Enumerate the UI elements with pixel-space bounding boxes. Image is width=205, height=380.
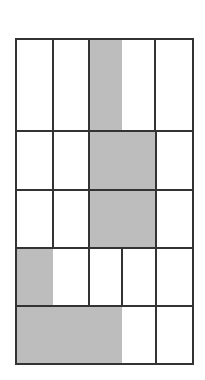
grid-vertical-line	[155, 131, 157, 190]
grid-vertical-line	[88, 190, 90, 248]
shaded-region	[89, 39, 122, 131]
grid-vertical-line	[121, 248, 123, 306]
grid-vertical-line	[88, 248, 90, 306]
grid-vertical-line	[88, 39, 90, 131]
grid-vertical-line	[154, 39, 156, 131]
shaded-region	[89, 131, 156, 190]
grid-vertical-line	[52, 131, 54, 190]
shaded-region	[89, 190, 156, 248]
grid-vertical-line	[155, 190, 157, 248]
grid-horizontal-line	[15, 130, 194, 132]
grid-horizontal-line	[15, 189, 194, 191]
grid-vertical-line	[52, 190, 54, 248]
grid-diagram	[0, 0, 205, 380]
grid-vertical-line	[155, 306, 157, 364]
shaded-region	[16, 248, 53, 306]
grid-horizontal-line	[15, 247, 194, 249]
grid-vertical-line	[155, 248, 157, 306]
grid-horizontal-line	[15, 38, 194, 40]
grid-horizontal-line	[15, 363, 194, 365]
grid-left-border	[15, 38, 17, 365]
grid-vertical-line	[52, 39, 54, 131]
grid-right-border	[192, 38, 194, 365]
grid-vertical-line	[88, 131, 90, 190]
grid-horizontal-line	[15, 305, 194, 307]
shaded-region	[16, 306, 122, 364]
